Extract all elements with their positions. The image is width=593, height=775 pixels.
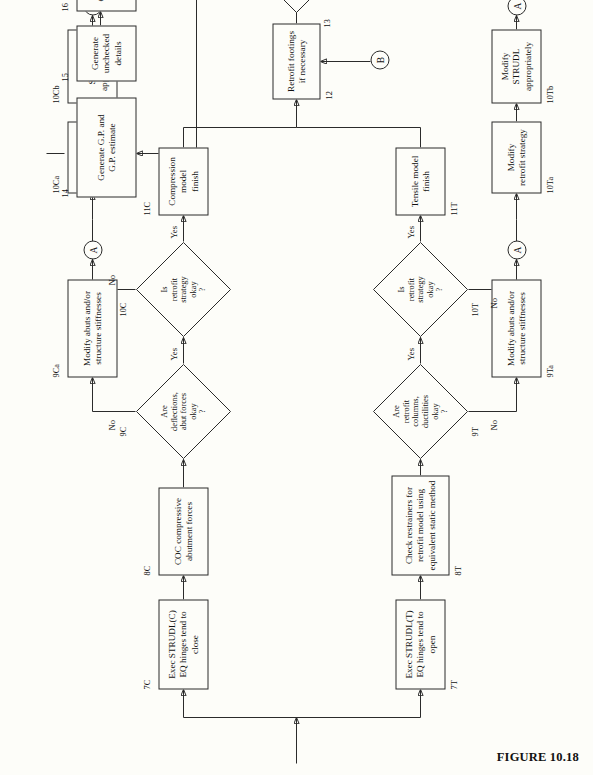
tag-8C: 8C	[142, 565, 151, 575]
node-9T-line1: Are	[391, 394, 401, 427]
node-8T-line1: Check restrainers for	[403, 480, 414, 570]
node-9T[interactable]: Are retrofit columns, ductilities okay ?	[372, 363, 468, 459]
node-10Tb-line1: Modify	[499, 32, 510, 100]
node-10T-line4: okay	[425, 276, 435, 303]
node-14-line2: G.P. estimate	[106, 114, 117, 180]
tag-15: 15	[60, 73, 69, 81]
tag-11C: 11C	[142, 201, 151, 215]
figure-canvas: Exec STRUDL(C) EQ hinges tend to close 7…	[0, 0, 593, 775]
node-10T-line2: retrofit	[406, 276, 416, 303]
node-9T-line2: retrofit	[401, 394, 411, 427]
tag-9T: 9T	[470, 427, 479, 436]
node-8T-line2: retrofit model using	[414, 480, 425, 570]
node-10Tb-line2: STRUDL appropriately	[510, 32, 532, 100]
node-10Ta[interactable]: Modify retrofit strategy	[491, 121, 541, 193]
node-9C-line1: Are	[159, 392, 169, 431]
node-11C[interactable]: Compression model finish	[158, 147, 208, 215]
node-10T-line1: Is	[396, 276, 406, 303]
node-16[interactable]: Complete P.S. & E.	[76, 0, 136, 11]
edge-label-10T-no: No	[488, 297, 498, 308]
tag-9Ca: 9Ca	[51, 364, 60, 378]
tag-10Tb: 10Tb	[545, 85, 554, 103]
tag-8T: 8T	[453, 566, 462, 575]
node-10C-line4: okay	[188, 276, 198, 303]
figure-caption: FIGURE 10.18	[497, 750, 579, 765]
connector-a-10Tb[interactable]: A	[507, 0, 526, 15]
node-9Ta-line2: structure stiffnesses	[516, 290, 527, 365]
tag-16: 16	[60, 3, 69, 11]
edge-label-10C-no: No	[106, 274, 116, 285]
tag-14: 14	[60, 189, 69, 197]
node-11C-line2: finish	[189, 150, 200, 212]
connector-b-into-12[interactable]: B	[370, 50, 389, 69]
node-10T-line3: strategy	[415, 276, 425, 303]
node-10T-line5: ?	[434, 276, 444, 303]
tag-10Ca: 10Ca	[51, 175, 60, 193]
edge-label-9T-yes: Yes	[405, 347, 415, 360]
node-10Ta-line1: Modify	[505, 129, 516, 186]
node-8T-line3: equivalent static method	[426, 480, 437, 570]
node-7C-line1: Exec STRUDL(C)	[166, 602, 177, 686]
node-10C-line1: Is	[159, 276, 169, 303]
node-10Tb[interactable]: Modify STRUDL appropriately	[491, 29, 541, 103]
node-9T-line6: ?	[439, 394, 449, 427]
node-9C-line2: deflections,	[169, 392, 179, 431]
node-7C[interactable]: Exec STRUDL(C) EQ hinges tend to close	[158, 599, 208, 689]
edge-label-9C-no: No	[106, 419, 116, 430]
node-9Ta-line1: Modify abuts and/or	[505, 290, 516, 365]
node-10T[interactable]: Is retrofit strategy okay ?	[372, 241, 468, 337]
tag-11T: 11T	[449, 202, 458, 215]
node-11T-line1: Tensile model	[409, 155, 420, 207]
node-15-line2: details	[112, 28, 123, 78]
node-15[interactable]: Generate unchecked details	[76, 25, 136, 81]
edge-label-9T-no: No	[488, 419, 498, 430]
tag-10Ta: 10Ta	[545, 176, 554, 193]
node-11T-line2: finish	[420, 155, 431, 207]
node-7T[interactable]: Exec STRUDL(T) EQ hinges tend to open	[395, 599, 445, 689]
node-8C-line1: COC compressive	[172, 497, 183, 564]
node-9C[interactable]: Are deflections, abut forces okay ?	[135, 363, 231, 459]
connector-a-9Ca[interactable]: A	[83, 240, 102, 259]
node-9C-line5: ?	[197, 392, 207, 431]
node-10C-line5: ?	[197, 276, 207, 303]
flowchart: Exec STRUDL(C) EQ hinges tend to close 7…	[0, 0, 593, 775]
node-7T-line1: Exec STRUDL(T)	[403, 602, 414, 686]
node-9T-line4: ductilities	[420, 394, 430, 427]
node-16-line1: Complete P.S. & E.	[95, 0, 117, 8]
connector-a-9Ta[interactable]: A	[507, 240, 526, 259]
node-10Ta-line2: retrofit strategy	[516, 129, 527, 186]
node-9Ca-line2: structure stiffnesses	[92, 290, 103, 365]
tag-9Ta: 9Ta	[545, 365, 554, 377]
node-9C-line4: okay	[188, 392, 198, 431]
node-8C[interactable]: COC compressive abutment forces	[158, 487, 208, 575]
node-11T[interactable]: Tensile model finish	[395, 147, 445, 215]
tag-9C: 9C	[118, 426, 127, 436]
tag-10C: 10C	[118, 302, 127, 316]
tag-10T: 10T	[470, 303, 479, 317]
tag-7T: 7T	[449, 680, 458, 689]
node-12-line1: Retrofit footings	[285, 31, 296, 92]
diamond-shape-13	[248, 0, 344, 13]
node-9Ta[interactable]: Modify abuts and/or structure stiffnesse…	[491, 279, 541, 377]
node-7C-line2: EQ hinges tend to close	[177, 602, 199, 686]
node-8C-line2: abutment forces	[183, 497, 194, 564]
node-11C-line1: Compression model	[166, 150, 188, 212]
node-12[interactable]: Retrofit footings if necessary	[272, 23, 320, 99]
node-8T[interactable]: Check restrainers for retrofit model usi…	[391, 475, 449, 575]
node-10C[interactable]: Is retrofit strategy okay ?	[135, 241, 231, 337]
node-9Ca[interactable]: Modify abuts and/or structure stiffnesse…	[67, 279, 117, 377]
edge-label-10T-yes: Yes	[405, 225, 415, 238]
tag-7C: 7C	[142, 679, 151, 689]
node-9C-line3: abut forces	[178, 392, 188, 431]
tag-10Cb: 10Cb	[51, 85, 60, 103]
node-15-line1: Generate unchecked	[89, 28, 111, 78]
node-10C-line2: retrofit	[169, 276, 179, 303]
node-14[interactable]: Generate G.P. and G.P. estimate	[76, 97, 136, 197]
node-12-line2: if necessary	[296, 31, 307, 92]
tag-13: 13	[322, 19, 331, 27]
node-9Ca-line1: Modify abuts and/or	[81, 290, 92, 365]
node-9T-line5: okay	[430, 394, 440, 427]
node-13[interactable]: Strategy meeting Is strategy okay ?	[248, 0, 344, 13]
tag-12: 12	[324, 91, 333, 99]
node-10C-line3: strategy	[178, 276, 188, 303]
